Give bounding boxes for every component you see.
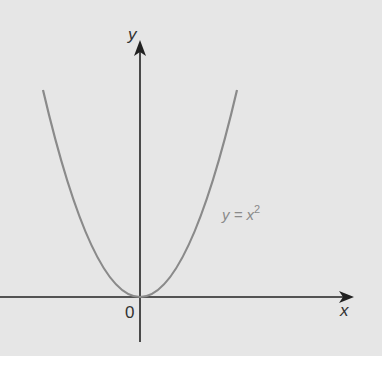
curve-label-base: y = x: [221, 206, 255, 223]
x-axis-label: x: [339, 301, 349, 320]
origin-label: 0: [125, 303, 134, 322]
curve-label: y = x2: [221, 203, 260, 223]
y-axis-label: y: [127, 25, 138, 44]
parabola-diagram: y x 0 y = x2: [0, 0, 387, 366]
curve-label-exponent: 2: [254, 203, 260, 215]
